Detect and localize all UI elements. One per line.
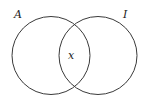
- set-i-label: I: [122, 8, 128, 21]
- set-a-circle: [12, 17, 90, 95]
- venn-diagram: A I x: [0, 0, 142, 100]
- venn-canvas: A I x: [0, 0, 142, 100]
- intersection-label: x: [68, 49, 75, 62]
- set-a-label: A: [13, 8, 22, 21]
